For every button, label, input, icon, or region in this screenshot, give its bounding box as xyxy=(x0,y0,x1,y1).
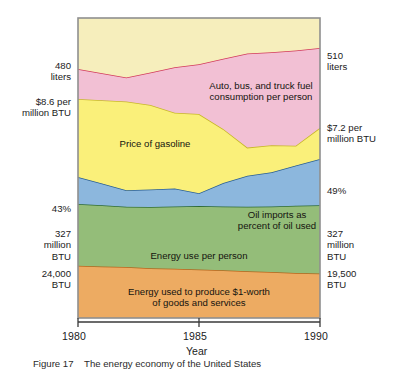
right-annotation-energy-per-dollar: 19,500BTU xyxy=(327,268,356,291)
x-tick-label-1980: 1980 xyxy=(62,330,86,342)
figure-caption: Figure 17 The energy economy of the Unit… xyxy=(33,358,261,369)
band-label-oil-imports: Oil imports aspercent of oil used xyxy=(224,209,330,232)
left-annotation-energy-per-dollar: 24,000BTU xyxy=(42,268,71,291)
plot-area xyxy=(78,18,320,318)
band-label-energy-use: Energy use per person xyxy=(119,250,279,261)
left-annotation-fuel-consumption: 480liters xyxy=(51,60,71,83)
band-label-energy-per-dollar: Energy used to produce $1-worthof goods … xyxy=(104,286,294,309)
band-label-fuel-consumption: Auto, bus, and truck fuelconsumption per… xyxy=(196,80,326,103)
left-annotation-gasoline-price: $8.6 permillion BTU xyxy=(22,96,71,119)
x-axis xyxy=(78,318,320,327)
right-annotation-fuel-consumption: 510liters xyxy=(327,50,347,73)
x-axis-title: Year xyxy=(186,345,207,357)
band-label-gasoline-price: Price of gasoline xyxy=(95,138,215,149)
x-tick-label-1990: 1990 xyxy=(304,330,328,342)
left-annotation-oil-imports: 43% xyxy=(52,203,71,214)
left-annotation-energy-use: 327millionBTU xyxy=(44,228,71,262)
x-tick-label-1985: 1985 xyxy=(183,330,207,342)
right-annotation-energy-use: 327millionBTU xyxy=(327,228,354,262)
area-bands xyxy=(78,18,320,318)
right-annotation-oil-imports: 49% xyxy=(327,185,346,196)
right-annotation-gasoline-price: $7.2 permillion BTU xyxy=(327,122,376,145)
